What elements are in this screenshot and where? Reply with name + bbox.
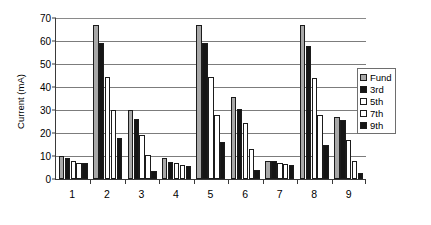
- x-axis-tick-label: 4: [159, 186, 194, 208]
- bar: [65, 158, 70, 179]
- bar-group: [125, 18, 159, 179]
- bar-groups: [56, 18, 366, 179]
- x-axis-tick-label: 2: [90, 186, 125, 208]
- legend-swatch-icon: [360, 98, 367, 105]
- bar: [59, 156, 64, 179]
- legend-swatch-icon: [360, 122, 367, 129]
- x-axis-tickmark: [332, 179, 333, 184]
- legend-item: 7th: [360, 107, 392, 119]
- x-axis-tickmark: [194, 179, 195, 184]
- bar: [340, 120, 345, 179]
- legend-item: 5th: [360, 95, 392, 107]
- bar: [358, 173, 363, 179]
- bar: [105, 77, 110, 179]
- bar: [352, 161, 357, 179]
- bar-group: [159, 18, 193, 179]
- bar: [220, 142, 225, 179]
- bar-chart: Current (mA) 010203040506070 123456789 F…: [0, 0, 431, 225]
- bar: [117, 138, 122, 179]
- x-axis-tickmark: [365, 179, 366, 184]
- legend-swatch-icon: [360, 74, 367, 81]
- legend-swatch-icon: [360, 110, 367, 117]
- legend-item-label: 3rd: [370, 84, 384, 95]
- bar: [134, 119, 139, 179]
- x-axis-tickmark: [90, 179, 91, 184]
- legend-item: 3rd: [360, 83, 392, 95]
- legend-swatch-icon: [360, 86, 367, 93]
- x-axis-tick-labels: 123456789: [55, 186, 366, 208]
- bar: [180, 165, 185, 179]
- bar-group: [228, 18, 262, 179]
- plot-area: 010203040506070: [55, 18, 366, 180]
- y-axis-tick-label: 60: [40, 36, 51, 47]
- bar: [289, 165, 294, 179]
- bar: [323, 145, 328, 180]
- bar-group: [263, 18, 297, 179]
- bar: [145, 155, 150, 179]
- bar-group: [90, 18, 124, 179]
- x-axis-tick-label: 9: [332, 186, 367, 208]
- bar: [151, 171, 156, 179]
- bar: [196, 25, 201, 179]
- bar: [249, 149, 254, 179]
- x-axis-tick-label: 8: [297, 186, 332, 208]
- y-axis-tick-label: 40: [40, 82, 51, 93]
- legend-item: 9th: [360, 119, 392, 131]
- x-axis-tick-label: 5: [193, 186, 228, 208]
- bar: [174, 163, 179, 179]
- y-axis-title: Current (mA): [15, 42, 26, 162]
- y-axis-tick-label: 50: [40, 59, 51, 70]
- bar: [271, 161, 276, 179]
- x-axis-tickmark: [263, 179, 264, 184]
- y-axis-tick-label: 70: [40, 13, 51, 24]
- x-axis-tick-label: 1: [55, 186, 90, 208]
- bar-group: [194, 18, 228, 179]
- bar: [128, 110, 133, 179]
- bar: [283, 164, 288, 179]
- bar: [243, 123, 248, 179]
- y-axis-tick-label: 30: [40, 105, 51, 116]
- bar: [76, 163, 81, 179]
- y-axis-tick-label: 20: [40, 128, 51, 139]
- legend-item-label: Fund: [370, 72, 392, 83]
- legend-item: Fund: [360, 71, 392, 83]
- chart-legend: Fund3rd5th7th9th: [357, 68, 396, 134]
- bar: [162, 158, 167, 179]
- bar: [93, 25, 98, 179]
- bar: [111, 110, 116, 179]
- bar: [312, 78, 317, 179]
- bar: [168, 162, 173, 179]
- y-axis-tick-label: 0: [45, 174, 51, 185]
- bar: [317, 115, 322, 179]
- x-axis-tickmark: [159, 179, 160, 184]
- bar: [265, 161, 270, 179]
- bar: [186, 166, 191, 179]
- bar: [306, 46, 311, 179]
- bar: [237, 109, 242, 179]
- x-axis-tickmark: [297, 179, 298, 184]
- bar: [300, 25, 305, 179]
- legend-item-label: 9th: [370, 120, 383, 131]
- bar: [346, 140, 351, 179]
- bar: [71, 161, 76, 179]
- x-axis-tick-label: 3: [124, 186, 159, 208]
- bar: [277, 163, 282, 179]
- x-axis-tickmark: [228, 179, 229, 184]
- bar: [82, 163, 87, 179]
- bar: [334, 117, 339, 179]
- bar: [254, 170, 259, 179]
- x-axis-tickmark: [125, 179, 126, 184]
- bar: [99, 43, 104, 179]
- bar: [231, 97, 236, 179]
- bar: [208, 77, 213, 179]
- bar: [202, 43, 207, 179]
- legend-item-label: 7th: [370, 108, 383, 119]
- bar: [139, 135, 144, 179]
- x-axis-tick-label: 6: [228, 186, 263, 208]
- legend-item-label: 5th: [370, 96, 383, 107]
- bar-group: [56, 18, 90, 179]
- bar: [214, 115, 219, 179]
- x-axis-tick-label: 7: [262, 186, 297, 208]
- y-axis-tick-label: 10: [40, 151, 51, 162]
- bar-group: [297, 18, 331, 179]
